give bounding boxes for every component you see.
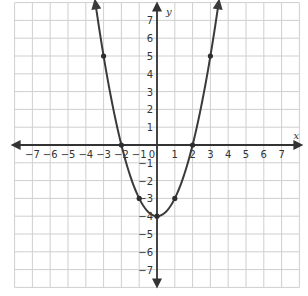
x-tick-label: 1 bbox=[172, 149, 178, 160]
data-point bbox=[119, 142, 124, 147]
x-axis-label: x bbox=[293, 130, 299, 141]
y-tick-label: −5 bbox=[138, 229, 153, 240]
y-tick-label: −6 bbox=[138, 247, 153, 258]
curve-arrow-icon bbox=[91, 0, 101, 10]
x-tick-label: 3 bbox=[207, 149, 213, 160]
y-tick-label: 2 bbox=[147, 104, 153, 115]
y-tick-label: 5 bbox=[147, 51, 153, 62]
data-point bbox=[137, 196, 142, 201]
arrow-left-icon bbox=[11, 140, 21, 150]
x-tick-label: 7 bbox=[278, 149, 284, 160]
data-point bbox=[101, 53, 106, 58]
x-tick-label: −7 bbox=[25, 149, 40, 160]
y-tick-label: 6 bbox=[147, 33, 153, 44]
data-point bbox=[208, 53, 213, 58]
x-tick-label: 5 bbox=[243, 149, 249, 160]
axes bbox=[11, 2, 304, 289]
y-tick-label: 3 bbox=[147, 87, 153, 98]
y-tick-label: −7 bbox=[138, 265, 153, 276]
arrow-right-icon bbox=[293, 140, 303, 150]
data-point bbox=[154, 214, 159, 219]
x-tick-label: −2 bbox=[114, 149, 129, 160]
y-tick-label: 4 bbox=[147, 69, 153, 80]
y-tick-label: 7 bbox=[147, 15, 153, 26]
y-tick-label: 1 bbox=[147, 122, 153, 133]
coordinate-plane: −7−6−5−4−3−2−101234567−7−6−5−4−3−2−11234… bbox=[0, 0, 308, 296]
x-tick-label: −5 bbox=[61, 149, 76, 160]
x-tick-label: −6 bbox=[43, 149, 58, 160]
x-tick-label: 6 bbox=[261, 149, 267, 160]
y-axis-label: y bbox=[165, 6, 172, 17]
x-tick-label: −3 bbox=[96, 149, 111, 160]
curve-arrow-icon bbox=[213, 0, 223, 10]
x-tick-label: 4 bbox=[225, 149, 231, 160]
y-tick-label: −2 bbox=[138, 176, 153, 187]
data-point bbox=[172, 196, 177, 201]
x-tick-label: −4 bbox=[78, 149, 93, 160]
y-tick-label: −1 bbox=[138, 158, 153, 169]
data-point bbox=[190, 142, 195, 147]
